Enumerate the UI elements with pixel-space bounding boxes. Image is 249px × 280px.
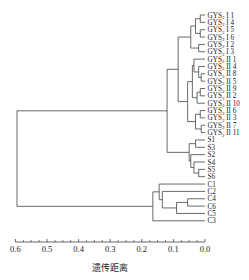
dendrogram-chart: GYS2 I 1GYS2 I 4GYS2 I 5GYS2 I 6GYS2 I 2… <box>0 0 249 280</box>
leaf-label: C3 <box>208 217 217 225</box>
x-tick-label: 0.6 <box>10 244 21 254</box>
x-tick-label: 0.1 <box>168 244 179 254</box>
x-tick-label: 0.4 <box>73 244 84 254</box>
x-tick-label: 0.2 <box>136 244 147 254</box>
x-tick-label: 0.0 <box>200 244 211 254</box>
leaf-labels: GYS2 I 1GYS2 I 4GYS2 I 5GYS2 I 6GYS2 I 2… <box>208 12 241 226</box>
x-tick-label: 0.5 <box>42 244 53 254</box>
x-tick-label: 0.3 <box>105 244 116 254</box>
x-axis-label: 遗传距离 <box>92 262 128 273</box>
dendrogram-tree <box>17 15 205 221</box>
x-axis: 0.60.50.40.30.20.10.0 <box>10 239 210 254</box>
